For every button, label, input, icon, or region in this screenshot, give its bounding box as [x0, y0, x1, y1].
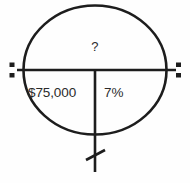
unknown-value-label: ?: [0, 40, 190, 53]
division-colon-left-upper-dot: [10, 63, 15, 68]
division-colon-left-icon: [10, 63, 15, 78]
diagram-canvas: ? $75,000 7%: [0, 0, 190, 183]
principal-amount-label: $75,000: [28, 86, 76, 100]
division-colon-left-lower-dot: [10, 73, 15, 78]
division-colon-right-icon: [176, 63, 181, 78]
division-colon-right-upper-dot: [176, 63, 181, 68]
interest-rate-label: 7%: [104, 86, 123, 100]
division-colon-right-lower-dot: [176, 73, 181, 78]
